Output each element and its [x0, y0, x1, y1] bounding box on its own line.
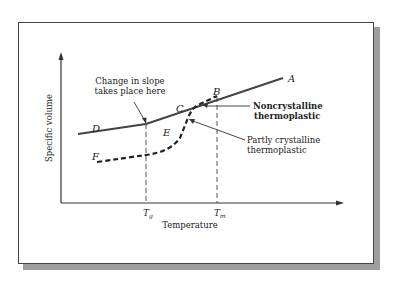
label-a: A	[287, 73, 295, 84]
slope-change-arrow-icon	[142, 118, 147, 125]
plot-svg: A B C D E F Change in slope takes place …	[0, 0, 398, 286]
partly-crystalline-leader	[193, 121, 245, 140]
diagram-figure: A B C D E F Change in slope takes place …	[0, 0, 398, 286]
y-axis-label: Specific volume	[44, 94, 54, 162]
label-d: D	[91, 123, 100, 134]
tick-label-tg: Tg	[143, 208, 153, 220]
y-axis-arrow-icon	[59, 52, 64, 60]
x-axis-label: Temperature	[162, 220, 218, 230]
annotation-noncrystalline-line2: thermoplastic	[254, 111, 320, 121]
label-c: C	[176, 103, 184, 114]
annotation-slope-change-line1: Change in slope	[95, 76, 164, 86]
annotation-slope-change-line2: takes place here	[94, 86, 165, 96]
x-axis-arrow-icon	[336, 201, 344, 206]
annotation-partly-crystalline-line2: thermoplastic	[247, 145, 307, 155]
annotation-noncrystalline-line1: Noncrystalline	[253, 101, 323, 111]
label-e: E	[162, 127, 171, 138]
label-f: F	[91, 151, 100, 162]
label-b: B	[212, 86, 220, 97]
annotation-partly-crystalline-line1: Partly crystalline	[247, 135, 320, 145]
tick-label-tm: Tm	[214, 208, 226, 219]
